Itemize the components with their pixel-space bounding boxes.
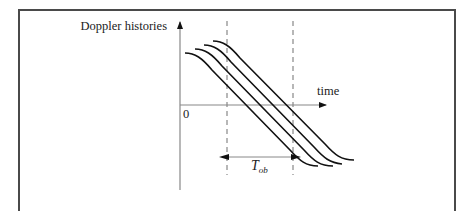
interval-label: Tob [251,158,268,175]
doppler-curve-2 [195,49,333,166]
x-axis-label: time [317,84,340,98]
y-axis-label: Doppler histories [81,19,168,33]
origin-label: 0 [183,107,189,121]
interval-label-sub: ob [259,165,269,175]
doppler-diagram: Doppler histories time 0 Tob [0,0,475,211]
doppler-curve-4 [213,41,354,160]
